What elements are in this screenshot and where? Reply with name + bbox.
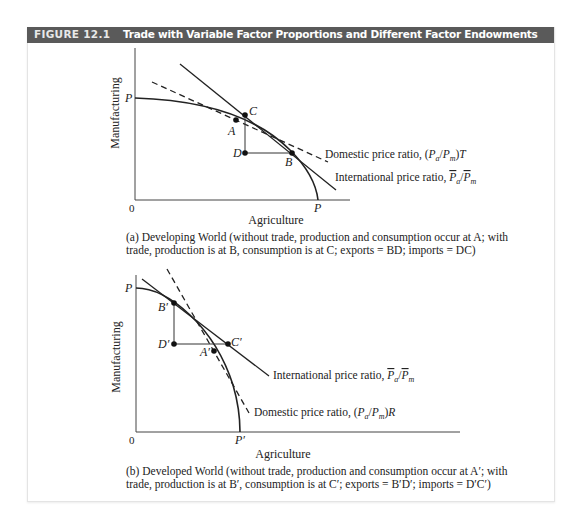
panel-a-international-price-line xyxy=(180,64,336,190)
panel-b-diagram: B′ D′ C′ A′ P P′ 0 Manufacturing Agricul… xyxy=(109,269,460,461)
panel-b-label-b: B′ xyxy=(158,300,168,314)
panel-b-domestic-price-label: Domestic price ratio, (Pa/Pm)R xyxy=(254,406,395,421)
panel-b-international-price-label: International price ratio, Pa/Pm xyxy=(273,369,415,384)
panel-b-point-d xyxy=(171,341,177,347)
panel-b-origin-label: 0 xyxy=(129,434,135,446)
panel-b-y-axis-label: Manufacturing xyxy=(109,321,123,392)
panel-b-point-b xyxy=(171,300,177,306)
panel-a-international-price-label: International price ratio, Pa/Pm xyxy=(335,171,477,186)
panel-a-origin-label: 0 xyxy=(129,202,135,214)
panel-b-label-a: A′ xyxy=(199,345,210,359)
panel-a-caption-line2: trade, production is at B, consumption i… xyxy=(126,244,508,257)
panel-b-point-c xyxy=(225,341,231,347)
panel-a-x-intercept-label: P xyxy=(313,201,322,215)
panel-b-label-d: D′ xyxy=(157,337,170,351)
panel-a-y-axis-label: Manufacturing xyxy=(108,77,122,148)
figure-diagrams: A C D B P P 0 Manufacturing Agriculture … xyxy=(0,0,582,528)
panel-a-ppf-curve xyxy=(135,98,318,200)
panel-b-caption: (b) Developed World (without trade, prod… xyxy=(126,465,507,491)
panel-a-label-d: D xyxy=(232,146,242,160)
panel-b-point-a xyxy=(211,348,217,354)
panel-a-y-intercept-label: P xyxy=(124,91,133,105)
panel-a-label-a: A xyxy=(227,124,236,138)
panel-b-x-intercept-label: P′ xyxy=(234,433,245,447)
panel-b-caption-line1: (b) Developed World (without trade, prod… xyxy=(126,465,507,478)
panel-a-caption: (a) Developing World (without trade, pro… xyxy=(126,231,508,257)
panel-a-point-a xyxy=(233,117,239,123)
panel-b-caption-line2: trade, production is at B′, consumption … xyxy=(126,478,507,491)
panel-a-label-b: B xyxy=(285,155,293,169)
panel-a-caption-line1: (a) Developing World (without trade, pro… xyxy=(126,231,508,244)
panel-a-domestic-price-label: Domestic price ratio, (Pa/Pm)T xyxy=(325,148,467,163)
panel-b-y-intercept-label: P xyxy=(124,281,133,295)
panel-b-ppf-curve xyxy=(136,288,240,432)
panel-a-point-d xyxy=(242,150,248,156)
panel-a-x-axis-label: Agriculture xyxy=(248,213,303,227)
panel-a-diagram: A C D B P P 0 Manufacturing Agriculture … xyxy=(108,48,477,227)
panel-b-label-c: C′ xyxy=(231,335,242,349)
panel-a-point-c xyxy=(242,112,248,118)
panel-a-label-c: C xyxy=(249,104,258,118)
panel-b-international-price-line xyxy=(142,279,269,376)
panel-b-x-axis-label: Agriculture xyxy=(255,447,310,461)
